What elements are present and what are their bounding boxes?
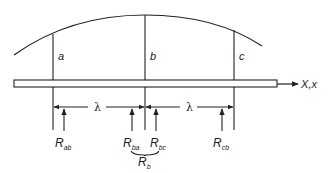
beam-diagram: a b c X,x λ λ Rab Rba Rbc Rcb Rb xyxy=(0,0,331,173)
beam xyxy=(14,80,277,87)
section-label-b: b xyxy=(150,50,156,62)
spacing-label-ab: λ xyxy=(94,101,101,114)
reaction-label-ba: Rba xyxy=(123,136,140,151)
section-label-a: a xyxy=(58,50,64,62)
reaction-label-cb: Rcb xyxy=(213,136,229,151)
combined-reaction-label: Rb xyxy=(138,155,151,170)
reaction-label-ab: Rab xyxy=(55,136,72,151)
spacing-label-bc: λ xyxy=(186,101,193,114)
load-curve xyxy=(14,15,262,55)
section-label-c: c xyxy=(239,50,245,62)
axis-label: X,x xyxy=(300,78,317,90)
reaction-label-bc: Rbc xyxy=(150,136,167,151)
